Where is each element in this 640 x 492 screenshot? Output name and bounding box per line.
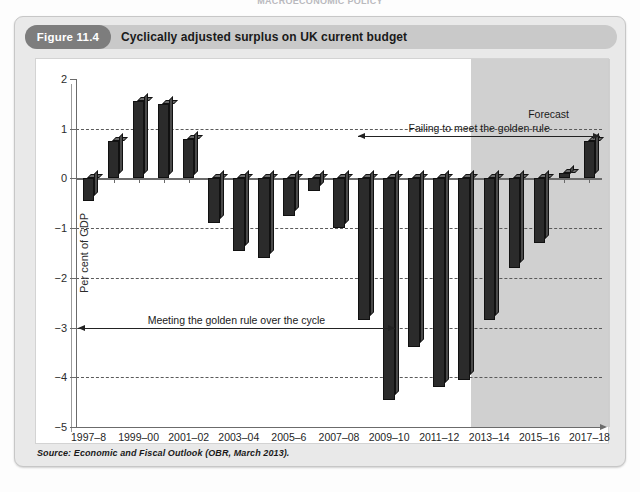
page-running-head: MACROECONOMIC POLICY bbox=[0, 0, 640, 8]
x-axis-tick bbox=[164, 178, 165, 183]
bar bbox=[408, 178, 420, 347]
y-axis-tick bbox=[70, 79, 76, 80]
y-axis-tick-label: 2 bbox=[61, 73, 67, 85]
meeting-golden-rule-line bbox=[78, 328, 395, 329]
y-axis-tick-label: 0 bbox=[61, 172, 67, 184]
failing-golden-rule-line bbox=[358, 136, 600, 137]
bar-side-face bbox=[545, 170, 549, 239]
bar bbox=[258, 178, 270, 258]
bar bbox=[383, 178, 395, 399]
bar-side-face bbox=[194, 131, 198, 175]
bar-side-face bbox=[144, 93, 148, 174]
bar bbox=[484, 178, 496, 320]
bar bbox=[584, 141, 596, 178]
bar-side-face bbox=[220, 170, 224, 219]
bar bbox=[358, 178, 370, 320]
bar bbox=[433, 178, 445, 387]
x-axis-tick bbox=[564, 178, 565, 183]
y-axis-tick bbox=[70, 228, 76, 229]
x-axis-tick-label: 2015–16 bbox=[519, 431, 560, 443]
plot-area: 210−1−2−3−4−5 1997–81999–002001–022003–0… bbox=[76, 79, 602, 427]
bar bbox=[509, 178, 521, 267]
bar-side-face bbox=[420, 170, 424, 343]
x-axis-tick bbox=[139, 178, 140, 183]
figure-title: Cyclically adjusted surplus on UK curren… bbox=[121, 25, 407, 49]
bar bbox=[108, 141, 120, 178]
bar-side-face bbox=[370, 170, 374, 316]
y-axis-depth-edge bbox=[71, 84, 72, 432]
x-axis bbox=[76, 427, 602, 428]
meeting-golden-rule-right-arrow-icon bbox=[388, 325, 395, 331]
y-axis-tick bbox=[70, 328, 76, 329]
bar bbox=[458, 178, 470, 379]
x-axis-tick bbox=[189, 178, 190, 183]
figure-header-bar: Figure 11.4 Cyclically adjusted surplus … bbox=[25, 25, 617, 49]
bar-side-face bbox=[169, 96, 173, 175]
bar-side-face bbox=[495, 170, 499, 316]
y-axis-tick bbox=[70, 129, 76, 130]
x-axis-tick-label: 2001–02 bbox=[168, 431, 209, 443]
x-axis-tick-label: 2003–04 bbox=[218, 431, 259, 443]
meeting-golden-rule-label: Meeting the golden rule over the cycle bbox=[148, 314, 325, 326]
bar bbox=[308, 178, 320, 190]
figure-page: MACROECONOMIC POLICY Figure 11.4 Cyclica… bbox=[0, 0, 640, 492]
figure-card: Figure 11.4 Cyclically adjusted surplus … bbox=[14, 16, 626, 467]
bar-side-face bbox=[94, 170, 98, 196]
failing-golden-rule-left-arrow-icon bbox=[358, 133, 365, 139]
failing-golden-rule-right-arrow-icon bbox=[593, 133, 600, 139]
y-axis-title: Per cent of GDP bbox=[78, 213, 90, 293]
meeting-golden-rule-left-arrow-icon bbox=[78, 325, 85, 331]
bar-side-face bbox=[345, 170, 349, 224]
gridline bbox=[76, 377, 602, 378]
y-axis-tick-label: 1 bbox=[61, 123, 67, 135]
x-axis-tick-label: 2011–12 bbox=[419, 431, 459, 443]
bar bbox=[133, 101, 145, 178]
bar bbox=[283, 178, 295, 215]
bar-side-face bbox=[295, 170, 299, 211]
bar-side-face bbox=[119, 133, 123, 174]
x-axis-arrow-icon bbox=[600, 424, 607, 430]
bar bbox=[158, 104, 170, 179]
bar bbox=[183, 139, 195, 179]
y-axis-tick bbox=[70, 278, 76, 279]
bar-side-face bbox=[245, 170, 249, 246]
x-axis-tick-label: 2007–08 bbox=[319, 431, 360, 443]
x-axis-tick bbox=[114, 178, 115, 183]
bar bbox=[333, 178, 345, 228]
bar-side-face bbox=[270, 170, 274, 254]
x-axis-tick-label: 2009–10 bbox=[369, 431, 410, 443]
bar-side-face bbox=[395, 170, 399, 395]
bar bbox=[208, 178, 220, 223]
y-axis-tick bbox=[70, 377, 76, 378]
bar-side-face bbox=[595, 133, 599, 174]
source-note: Source: Economic and Fiscal Outlook (OBR… bbox=[37, 448, 289, 458]
bar bbox=[83, 178, 95, 200]
bar-side-face bbox=[470, 170, 474, 375]
x-axis-tick bbox=[589, 178, 590, 183]
x-axis-tick-label: 2017–18 bbox=[569, 431, 610, 443]
failing-golden-rule-label: Failing to meet the golden rule bbox=[409, 122, 550, 134]
gridline bbox=[76, 278, 602, 279]
y-axis-tick-label: −4 bbox=[54, 371, 67, 383]
y-axis-tick bbox=[70, 178, 76, 179]
x-axis-tick-label: 2013–14 bbox=[469, 431, 510, 443]
y-axis-tick-label: −3 bbox=[54, 322, 67, 334]
bar-side-face bbox=[520, 170, 524, 263]
bar-side-face bbox=[445, 170, 449, 383]
y-axis-tick-label: −5 bbox=[54, 421, 67, 433]
bar bbox=[559, 173, 571, 178]
forecast-label: Forecast bbox=[528, 108, 569, 120]
x-axis-tick-label: 2005–6 bbox=[271, 431, 306, 443]
x-axis-tick-label: 1999–00 bbox=[118, 431, 159, 443]
y-axis-tick-label: −1 bbox=[54, 222, 67, 234]
bar bbox=[233, 178, 245, 250]
y-axis-tick bbox=[70, 427, 76, 428]
bar-side-face bbox=[320, 170, 324, 186]
bar bbox=[534, 178, 546, 243]
x-axis-tick-label: 1997–8 bbox=[71, 431, 106, 443]
plot-panel: 210−1−2−3−4−5 1997–81999–002001–022003–0… bbox=[35, 58, 609, 444]
y-axis-tick-label: −2 bbox=[54, 272, 67, 284]
figure-number-badge: Figure 11.4 bbox=[25, 25, 111, 49]
